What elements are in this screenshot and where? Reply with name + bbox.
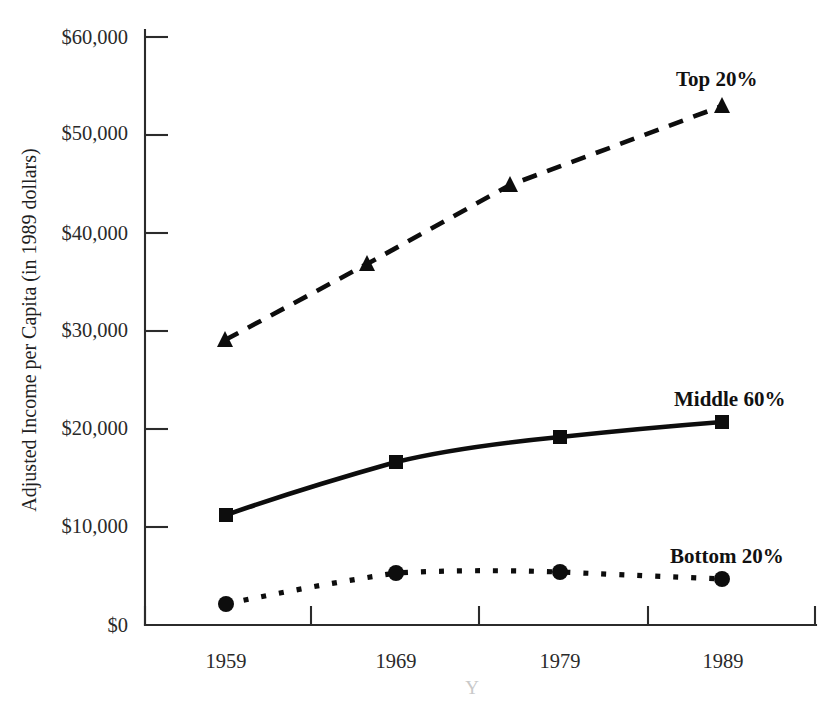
y-tick-label-40000: $40,000 [61, 222, 128, 244]
series-middle-60-marker-1989 [715, 415, 729, 429]
series-middle-60-line [226, 422, 722, 515]
series-bottom-20-marker-1959 [218, 596, 234, 612]
series-middle-60: Middle 60% [219, 387, 785, 522]
series-middle-60-marker-1979 [553, 430, 567, 444]
x-tick-label-1989: 1989 [703, 650, 744, 672]
x-tick-label-1979: 1979 [540, 650, 581, 672]
chart-container: Adjusted Income per Capita (in 1989 doll… [0, 0, 829, 710]
series-label-top-20: Top 20% [676, 67, 758, 91]
y-axis-title: Adjusted Income per Capita (in 1989 doll… [18, 148, 41, 511]
x-tick-label-1969: 1969 [376, 650, 417, 672]
series-label-middle-60: Middle 60% [674, 387, 785, 411]
series-label-bottom-20: Bottom 20% [670, 544, 784, 568]
series-bottom-20-marker-1969 [388, 565, 404, 581]
y-tick-label-30000: $30,000 [61, 319, 128, 341]
y-tick-label-10000: $10,000 [61, 515, 128, 537]
series-bottom-20-marker-1979 [552, 564, 568, 580]
series-top-20-marker-1989 [714, 97, 730, 113]
x-axis-title: Y [465, 677, 479, 698]
y-tick-label-20000: $20,000 [61, 417, 128, 439]
series-top-20-line [225, 106, 722, 340]
series-top-20: Top 20% [217, 67, 758, 347]
y-tick-label-60000: $60,000 [61, 26, 128, 48]
series-middle-60-marker-1959 [219, 508, 233, 522]
y-tick-label-50000: $50,000 [61, 122, 128, 144]
series-top-20-marker-1979 [502, 176, 518, 192]
series-bottom-20: Bottom 20% [218, 544, 784, 612]
series-bottom-20-marker-1989 [714, 571, 730, 587]
y-tick-label-0: $0 [108, 614, 129, 636]
x-tick-label-1959: 1959 [206, 650, 247, 672]
series-bottom-20-line [226, 571, 722, 604]
line-chart: Adjusted Income per Capita (in 1989 doll… [0, 0, 829, 710]
series-middle-60-marker-1969 [389, 455, 403, 469]
